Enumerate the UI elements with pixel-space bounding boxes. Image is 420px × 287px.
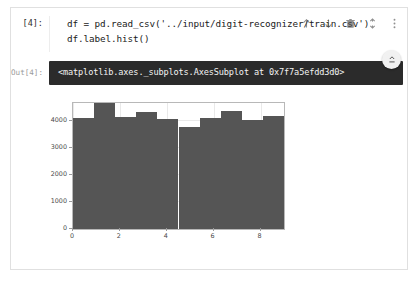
histogram-bar xyxy=(221,111,242,229)
histogram-bar xyxy=(115,117,136,229)
move-cell-up-icon[interactable] xyxy=(301,17,312,30)
y-tick-mark xyxy=(69,120,72,121)
collapse-cell-icon[interactable] xyxy=(367,17,378,30)
histogram-bar xyxy=(242,120,263,229)
histogram-bars xyxy=(73,103,284,229)
x-tick-mark xyxy=(260,228,261,231)
y-tick-label: 0 xyxy=(63,224,67,232)
y-tick-mark xyxy=(69,174,72,175)
histogram-bar xyxy=(94,103,115,229)
y-tick-label: 3000 xyxy=(51,143,67,151)
x-tick-mark xyxy=(119,228,120,231)
x-tick-mark xyxy=(166,228,167,231)
y-tick-label: 2000 xyxy=(51,170,67,178)
histogram-bar xyxy=(200,118,221,229)
more-options-icon[interactable] xyxy=(389,17,400,30)
input-prompt-label: [4]: xyxy=(11,16,49,30)
x-tick-label: 4 xyxy=(164,232,168,240)
output-prompt-label: Out[4]: xyxy=(11,61,49,79)
histogram-bar xyxy=(73,118,94,229)
y-tick-mark xyxy=(69,201,72,202)
notebook-code-cell: [4]: df = pd.read_csv('../input/digit-re… xyxy=(10,7,408,270)
delete-cell-icon[interactable] xyxy=(345,17,356,30)
histogram-bar xyxy=(179,127,200,229)
matplotlib-figure: 01000200030004000 02468 xyxy=(49,94,297,250)
y-tick-label: 1000 xyxy=(51,197,67,205)
code-line-2-text: df.label.hist() xyxy=(67,33,149,44)
histogram-bar xyxy=(136,112,157,229)
code-line-2: df.label.hist() xyxy=(67,31,407,46)
x-tick-mark xyxy=(213,228,214,231)
y-tick-label: 4000 xyxy=(51,116,67,124)
figure-output: 01000200030004000 02468 xyxy=(11,94,407,250)
x-tick-label: 2 xyxy=(117,232,121,240)
cell-toolbar xyxy=(301,17,400,30)
output-area: <matplotlib.axes._subplots.AxesSubplot a… xyxy=(49,61,407,85)
x-tick-label: 8 xyxy=(258,232,262,240)
collapse-output-icon[interactable] xyxy=(382,50,401,69)
cell-input-row: [4]: df = pd.read_csv('../input/digit-re… xyxy=(11,8,407,55)
x-tick-mark xyxy=(72,228,73,231)
plot-axes xyxy=(72,102,285,230)
histogram-bar xyxy=(263,116,284,229)
cell-output-row: Out[4]: <matplotlib.axes._subplots.AxesS… xyxy=(11,61,407,85)
x-tick-label: 6 xyxy=(211,232,215,240)
y-tick-mark xyxy=(69,147,72,148)
output-repr-text: <matplotlib.axes._subplots.AxesSubplot a… xyxy=(49,61,403,85)
histogram-bar xyxy=(157,119,178,229)
x-tick-label: 0 xyxy=(70,232,74,240)
move-cell-down-icon[interactable] xyxy=(323,17,334,30)
